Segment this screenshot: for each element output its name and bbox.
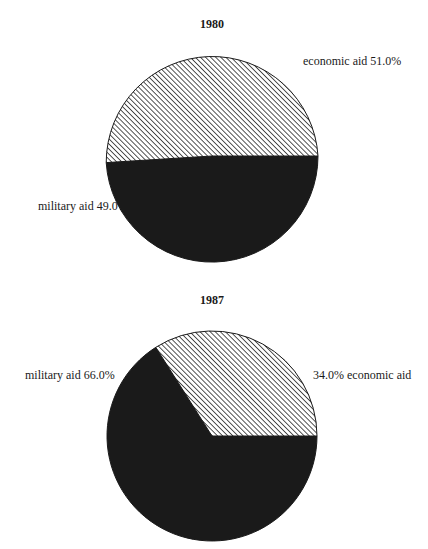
label-military-aid-1987: military aid 66.0% xyxy=(25,368,115,382)
slice-military-aid-1980 xyxy=(106,156,318,262)
label-economic-aid-1980: economic aid 51.0% xyxy=(303,54,401,68)
pie-title-1980: 1980 xyxy=(200,17,224,31)
pie-chart-1980: 1980 economic aid 51.0% military aid 49.… xyxy=(38,17,401,262)
label-military-aid-1980: military aid 49.0% xyxy=(38,199,128,213)
pie-title-1987: 1987 xyxy=(200,293,224,307)
pie-charts-figure: 1980 economic aid 51.0% military aid 49.… xyxy=(0,0,428,549)
label-economic-aid-1987: 34.0% economic aid xyxy=(313,368,411,382)
pie-chart-1987: 1987 military aid 66.0% 34.0% economic a… xyxy=(25,293,411,541)
slice-economic-aid-1980 xyxy=(106,57,318,163)
